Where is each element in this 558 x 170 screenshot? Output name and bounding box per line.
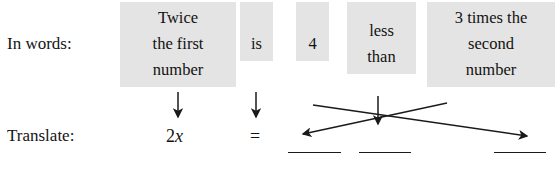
expression-two-x: 2x	[166, 126, 183, 146]
phrase-chip-is: is	[240, 2, 273, 61]
phrase-line: 3 times the	[455, 8, 527, 27]
expression-variable: x	[175, 126, 183, 146]
phrase-line: less	[369, 21, 394, 40]
phrase-line: 4	[296, 31, 329, 57]
phrase-line: number	[466, 60, 516, 79]
translate-diagram: In words: Translate: Twice the first num…	[0, 0, 558, 170]
answer-blank-2	[359, 152, 411, 153]
phrase-line: is	[240, 31, 273, 57]
in-words-row-label: In words:	[7, 34, 72, 53]
answer-blank-1	[288, 152, 341, 153]
arrow-second-number-crossing	[303, 103, 447, 134]
phrase-chip-three-times-second-number: 3 times the second number	[427, 2, 555, 87]
phrase-line: Twice	[158, 8, 198, 27]
arrow-four-crossing	[313, 105, 527, 136]
phrase-line: the first	[153, 34, 204, 53]
answer-blank-3	[494, 152, 546, 153]
phrase-line: second	[468, 34, 514, 53]
phrase-line: number	[153, 60, 203, 79]
expression-coefficient: 2	[166, 126, 175, 146]
translate-row-label: Translate:	[7, 126, 74, 145]
equals-sign: =	[250, 126, 260, 146]
phrase-chip-less-than: less than	[347, 2, 416, 74]
phrase-chip-four: 4	[296, 2, 329, 61]
phrase-line: than	[367, 47, 395, 66]
phrase-chip-twice-first-number: Twice the first number	[120, 2, 236, 87]
